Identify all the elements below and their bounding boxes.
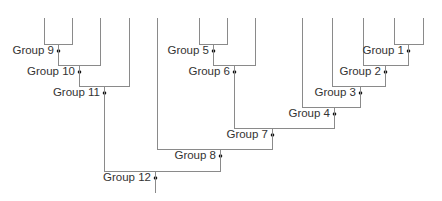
group-label: Group 9: [12, 44, 54, 57]
group-label: Group 5: [167, 44, 209, 57]
group-label: Group 1: [362, 44, 404, 57]
group-label: Group 12: [103, 171, 151, 184]
group-label: Group 10: [27, 65, 75, 78]
group-label: Group 3: [314, 86, 356, 99]
group-label: Group 7: [226, 128, 268, 141]
group-label: Group 11: [53, 86, 100, 99]
dendrogram: Group 1Group 2Group 3Group 4Group 5Group…: [0, 0, 442, 201]
dendrogram-lines: [0, 0, 442, 201]
group-label: Group 8: [174, 149, 216, 162]
group-label: Group 4: [288, 107, 330, 120]
group-label: Group 6: [188, 65, 230, 78]
group-label: Group 2: [339, 65, 381, 78]
